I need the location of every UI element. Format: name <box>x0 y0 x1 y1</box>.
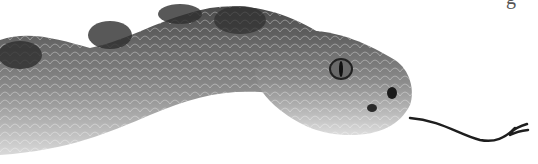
blotch <box>158 4 202 24</box>
forked-tongue <box>410 118 528 141</box>
blotch <box>0 41 42 69</box>
snake-illustration <box>0 0 538 164</box>
nostril <box>387 87 397 99</box>
blotch <box>88 21 132 49</box>
blotch <box>214 6 266 34</box>
